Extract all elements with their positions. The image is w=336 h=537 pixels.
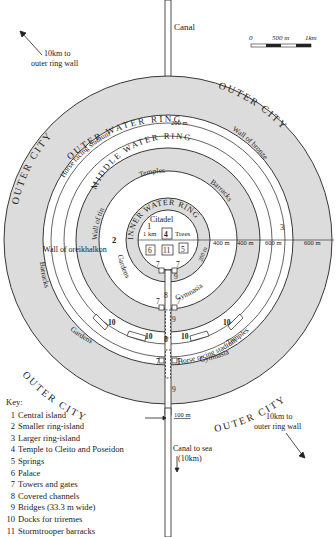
key-item: 10Docks for triremes xyxy=(6,514,124,526)
scale-bar: 0 500 m 1km xyxy=(249,34,317,47)
scale-label-500m: 500 m xyxy=(272,34,289,42)
label-8a: 8 xyxy=(164,291,168,300)
key-item: 9Bridges (33.3 m wide) xyxy=(6,502,124,514)
trees-label: Trees xyxy=(175,230,191,238)
canal-label: Canal xyxy=(174,22,195,32)
key-item: 2Smaller ring-island xyxy=(6,421,124,433)
label-7f: 7 xyxy=(177,357,181,366)
label-8b: 8 xyxy=(164,335,168,344)
scale-label-1km: 1km xyxy=(305,34,317,42)
key-item: 6Palace xyxy=(6,468,124,480)
key-item: 4Temple to Cleito and Poseidon xyxy=(6,444,124,456)
label-10a: 10 xyxy=(108,318,116,327)
canal-top xyxy=(165,0,171,80)
label-10d: 10 xyxy=(181,332,189,341)
label-7d: 7 xyxy=(177,297,181,306)
label-9a: 9 xyxy=(174,272,178,281)
label-11: 11 xyxy=(163,246,170,255)
width-1km-label: 1 km xyxy=(143,230,156,237)
label-6: 6 xyxy=(148,246,152,255)
outer-wall-se-line2: outer ring wall xyxy=(254,422,302,431)
label-10c: 10 xyxy=(145,332,153,341)
label-7a: 7 xyxy=(156,260,160,269)
label-9c: 9 xyxy=(172,385,176,394)
key-item: 8Covered channels xyxy=(6,491,124,503)
label-9b: 9 xyxy=(172,315,176,324)
citadel-label: Citadel xyxy=(150,215,174,224)
key-item: 7Towers and gates xyxy=(6,479,124,491)
canal-to-sea-label: Canal to sea xyxy=(173,444,213,453)
dim-600m-2: 600 m xyxy=(304,239,320,246)
label-10b: 10 xyxy=(223,318,231,327)
key-item: 11Stormtrooper barracks xyxy=(6,526,124,537)
key-item: 5Springs xyxy=(6,456,124,468)
outer-wall-nw-line2: outer ring wall xyxy=(31,59,79,68)
label-4: 4 xyxy=(164,230,168,239)
stadium-width-label: 200 m xyxy=(171,119,187,126)
outer-wall-nw-line1: 10km to xyxy=(44,49,70,58)
label-7b: 7 xyxy=(176,260,180,269)
key-legend: Key: 1Central island 2Smaller ring-islan… xyxy=(6,397,124,537)
dim-400m-2: 400 m xyxy=(237,239,253,246)
label-3: 3 xyxy=(280,222,284,232)
key-item: 3Larger ring-island xyxy=(6,433,124,445)
label-7c: 7 xyxy=(156,297,160,306)
label-7e: 7 xyxy=(156,357,160,366)
wall-of-oreikhalkon: Wall of oreikhalkon xyxy=(43,245,107,254)
label-2: 2 xyxy=(112,235,116,245)
bridges-channel xyxy=(165,270,171,537)
key-title: Key: xyxy=(6,397,124,409)
dim-600m-1: 600 m xyxy=(265,239,281,246)
label-1: 1 xyxy=(147,221,151,231)
scale-label-0: 0 xyxy=(249,34,253,42)
key-item: 1Central island xyxy=(6,410,124,422)
canal-width-label: 100 m xyxy=(174,411,190,418)
label-5: 5 xyxy=(181,245,185,254)
canal-to-sea-distance: (10km) xyxy=(178,454,202,463)
dim-400m-1: 400 m xyxy=(213,239,229,246)
